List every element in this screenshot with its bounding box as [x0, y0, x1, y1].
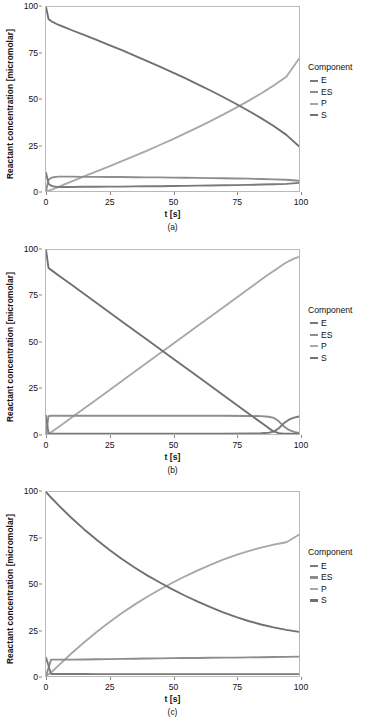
x-tick-label: 0 [44, 440, 49, 450]
x-tick-mark [46, 192, 47, 195]
legend-item-ES: ES [308, 572, 378, 584]
series-line-S [46, 492, 299, 632]
y-tick-mark [39, 630, 42, 631]
legend-item-label: S [321, 111, 327, 120]
y-axis-label: Reactant concentration [micromolar] [2, 4, 18, 204]
y-tick-mark [39, 192, 42, 193]
legend-item-label: P [321, 99, 327, 108]
y-tick-label: 0 [33, 187, 38, 197]
x-tick-mark [174, 192, 175, 195]
legend-item-label: S [321, 354, 327, 363]
legend-swatch-icon [310, 80, 318, 82]
legend-item-P: P [308, 341, 378, 353]
chart-panel-a: Reactant concentration [micromolar]02550… [0, 0, 380, 243]
axes-frame [45, 491, 300, 677]
y-tick-label: 0 [33, 430, 38, 440]
legend-swatch-icon [310, 599, 318, 601]
y-axis-label-text: Reactant concentration [micromolar] [5, 29, 15, 179]
y-tick-label: 75 [28, 48, 38, 58]
x-tick-mark [301, 192, 302, 195]
y-tick-mark [39, 537, 42, 538]
axes-frame [45, 6, 300, 192]
plot-area: Reactant concentration [micromolar]02550… [0, 489, 380, 689]
legend-swatch-icon [310, 588, 318, 590]
series-canvas [46, 250, 299, 434]
x-tick-label: 100 [294, 197, 308, 207]
x-tick-mark [237, 677, 238, 680]
x-tick-mark [46, 677, 47, 680]
legend-item-P: P [308, 583, 378, 595]
x-tick-label: 25 [105, 682, 115, 692]
x-tick-label: 25 [105, 197, 115, 207]
x-tick-mark [174, 435, 175, 438]
x-axis-ticks: 0255075100 [45, 677, 300, 693]
y-tick-mark [39, 99, 42, 100]
y-axis-label-text: Reactant concentration [micromolar] [5, 514, 15, 664]
x-axis-ticks: 0255075100 [45, 435, 300, 451]
y-tick-mark [39, 434, 42, 435]
series-line-P [46, 59, 299, 191]
x-axis-label: t [s] [45, 452, 300, 462]
x-axis-label: t [s] [45, 209, 300, 219]
legend: ComponentEESPS [308, 547, 378, 606]
y-tick-mark [39, 677, 42, 678]
series-line-P [46, 535, 299, 676]
y-tick-label: 50 [28, 579, 38, 589]
enzyme-kinetics-figure: Reactant concentration [micromolar]02550… [0, 0, 380, 728]
legend: ComponentEESPS [308, 305, 378, 364]
legend-swatch-icon [310, 322, 318, 324]
y-tick-label: 0 [33, 672, 38, 682]
x-tick-mark [237, 192, 238, 195]
series-line-ES [46, 415, 299, 433]
y-tick-mark [39, 52, 42, 53]
legend-item-label: ES [321, 88, 332, 97]
legend-item-label: E [321, 319, 327, 328]
series-line-P [46, 256, 299, 433]
legend-item-E: E [308, 318, 378, 330]
x-tick-mark [301, 435, 302, 438]
x-axis-ticks: 0255075100 [45, 192, 300, 208]
x-tick-mark [174, 677, 175, 680]
legend-title: Component [308, 547, 378, 557]
x-tick-mark [110, 192, 111, 195]
legend-swatch-icon [310, 334, 318, 336]
legend-item-label: ES [321, 331, 332, 340]
x-tick-mark [301, 677, 302, 680]
series-line-S [46, 7, 299, 146]
x-tick-label: 100 [294, 440, 308, 450]
y-tick-mark [39, 584, 42, 585]
x-tick-label: 0 [44, 682, 49, 692]
y-axis-label-text: Reactant concentration [micromolar] [5, 272, 15, 422]
x-tick-mark [110, 435, 111, 438]
legend-item-P: P [308, 98, 378, 110]
legend-item-label: E [321, 562, 327, 571]
legend-swatch-icon [310, 565, 318, 567]
x-tick-label: 0 [44, 197, 49, 207]
legend-item-label: ES [321, 573, 332, 582]
chart-panel-b: Reactant concentration [micromolar]02550… [0, 243, 380, 486]
series-canvas [46, 492, 299, 676]
legend-title: Component [308, 62, 378, 72]
x-tick-label: 25 [105, 440, 115, 450]
legend-swatch-icon [310, 357, 318, 359]
y-axis-label: Reactant concentration [micromolar] [2, 247, 18, 447]
series-line-E [46, 415, 299, 433]
legend-swatch-icon [310, 103, 318, 105]
y-tick-label: 75 [28, 290, 38, 300]
y-axis-ticks: 0255075100 [18, 247, 42, 447]
axes-frame [45, 249, 300, 435]
legend-item-E: E [308, 75, 378, 87]
y-tick-label: 25 [28, 626, 38, 636]
y-tick-mark [39, 295, 42, 296]
y-tick-mark [39, 341, 42, 342]
y-tick-mark [39, 491, 42, 492]
plot-area: Reactant concentration [micromolar]02550… [0, 247, 380, 447]
y-axis-label: Reactant concentration [micromolar] [2, 489, 18, 689]
legend-title: Component [308, 305, 378, 315]
x-axis-label: t [s] [45, 694, 300, 704]
legend-swatch-icon [310, 114, 318, 116]
y-axis-ticks: 0255075100 [18, 4, 42, 204]
legend-item-label: P [321, 585, 327, 594]
y-tick-mark [39, 6, 42, 7]
legend-item-E: E [308, 560, 378, 572]
